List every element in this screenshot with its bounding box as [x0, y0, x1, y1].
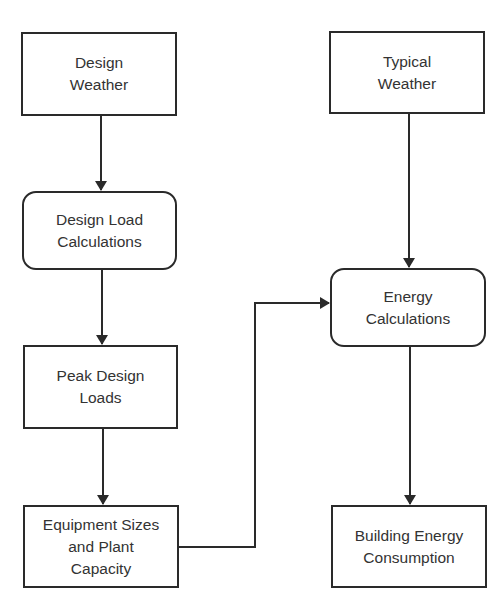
node-typical-weather: Typical Weather	[329, 31, 485, 114]
node-label: Building Energy Consumption	[355, 525, 464, 569]
node-label: Typical Weather	[378, 51, 436, 95]
node-label: Equipment Sizes and Plant Capacity	[43, 514, 159, 580]
node-design-weather: Design Weather	[21, 32, 177, 116]
node-building-energy-consumption: Building Energy Consumption	[331, 505, 487, 588]
node-label: Design Weather	[70, 52, 128, 96]
node-label: Peak Design Loads	[57, 365, 145, 409]
node-energy-calculations: Energy Calculations	[330, 268, 486, 347]
node-design-load-calculations: Design Load Calculations	[22, 191, 177, 270]
arrow-equipment-to-energy-calc	[178, 303, 329, 547]
node-peak-design-loads: Peak Design Loads	[23, 345, 178, 429]
node-label: Design Load Calculations	[56, 209, 143, 253]
node-label: Energy Calculations	[366, 286, 450, 330]
node-equipment-sizes: Equipment Sizes and Plant Capacity	[23, 505, 179, 588]
